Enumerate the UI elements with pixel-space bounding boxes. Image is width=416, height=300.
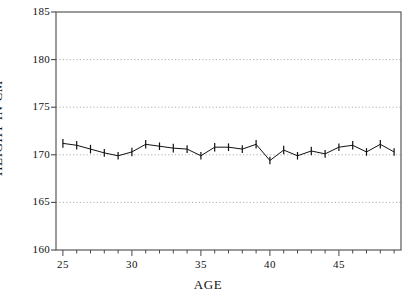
x-axis-title: AGE [0,277,416,293]
x-tick-label: 30 [112,258,152,270]
x-tick-label: 45 [319,258,359,270]
y-tick-label: 160 [6,243,50,255]
y-axis-title-wrap: HEIGHT IN CM [0,118,68,138]
chart-figure: HEIGHT IN CM AGE 185180175170165160 2530… [0,0,416,300]
y-tick-label: 170 [6,148,50,160]
y-tick-label: 180 [6,53,50,65]
y-tick-label: 185 [6,5,50,17]
x-tick-label: 25 [43,258,83,270]
x-tick-label: 40 [250,258,290,270]
plot-frame [56,12,401,250]
y-tick-label: 175 [6,100,50,112]
plot-area [0,0,416,300]
y-axis-title: HEIGHT IN CM [0,80,6,176]
y-tick-label: 165 [6,195,50,207]
x-tick-label: 35 [181,258,221,270]
